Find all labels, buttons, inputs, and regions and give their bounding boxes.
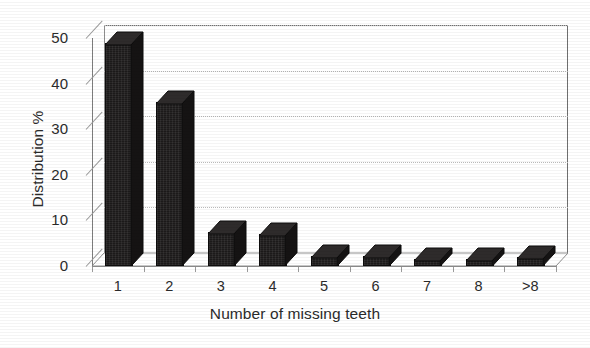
- x-axis-tick-labels: 12345678>8: [0, 278, 590, 300]
- y-tick-mark: [86, 21, 103, 39]
- bar: [105, 45, 131, 266]
- x-axis-label: Number of missing teeth: [0, 305, 590, 323]
- gridline: [104, 71, 568, 72]
- bar: [208, 234, 234, 266]
- y-tick-mark: [86, 112, 103, 130]
- bar-front-face: [156, 102, 184, 266]
- x-tick-label: 8: [456, 278, 502, 294]
- y-axis-line: [92, 38, 93, 266]
- x-tick-label: 2: [146, 278, 192, 294]
- x-tick-label: 4: [249, 278, 295, 294]
- x-axis-line: [92, 266, 556, 267]
- bar: [259, 236, 285, 266]
- x-tick-label: 7: [404, 278, 450, 294]
- bar-front-face: [105, 43, 133, 266]
- x-tick-label: 3: [198, 278, 244, 294]
- y-tick-mark: [86, 158, 103, 176]
- y-tick-mark: [86, 66, 103, 84]
- y-tick-mark: [86, 203, 103, 221]
- x-tick-label: 5: [301, 278, 347, 294]
- gridline: [104, 25, 568, 26]
- x-tick-mark: [556, 266, 557, 272]
- bar: [517, 259, 543, 266]
- bar: [156, 104, 182, 266]
- x-tick-label: 1: [95, 278, 141, 294]
- bar: [363, 258, 389, 266]
- x-tick-label: >8: [507, 278, 553, 294]
- bar-chart: Distribution % 01020304050 12345678>8 Nu…: [0, 0, 590, 348]
- x-tick-label: 6: [353, 278, 399, 294]
- bar: [311, 258, 337, 266]
